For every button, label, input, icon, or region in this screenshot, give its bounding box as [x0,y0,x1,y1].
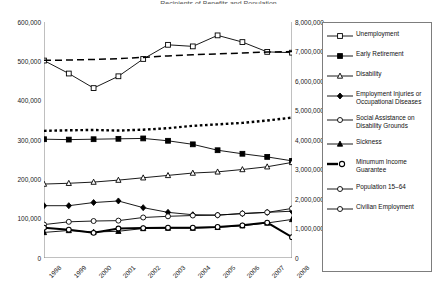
series-minumum-income-guarantee [44,220,292,239]
y-axis-left-tick-label: 500,000 [18,58,42,65]
x-axis-tick-label: 2004 [196,264,211,279]
series-disability [44,160,292,187]
legend-item-label: Minumum Income Guarantee [356,158,407,173]
legend-marker-icon [327,115,353,125]
legend-item-label: Employment Injuries or Occupational Dise… [356,90,421,105]
x-axis-tick-label: 2000 [97,264,112,279]
x-axis-tick-label: 1998 [47,264,62,279]
chart-canvas [44,22,292,258]
y-axis-right-tick-label: 0 [295,255,299,262]
x-axis-tick-label: 2003 [171,264,186,279]
legend-marker-icon [327,91,353,101]
legend-item-label: Social Assistance on Disability Grounds [356,114,415,129]
y-axis-left-tick-label: 100,000 [18,215,42,222]
y-axis-right-tick-label: 6,000,000 [295,78,324,85]
y-axis-left-tick-label: 0 [37,255,41,262]
legend-item[interactable]: Unemployment [327,30,428,41]
series-population-15-64 [44,52,292,61]
x-axis-tick-label: 2005 [221,264,236,279]
legend-item-label: Civilian Employment [356,203,414,211]
y-axis-right-tick-label: 8,000,000 [295,19,324,26]
legend-marker-icon [327,184,353,194]
legend-item-label: Unemployment [356,30,399,38]
series-early-retirement [44,136,292,163]
x-axis-tick-label: 2002 [146,264,161,279]
y-axis-right-tick-label: 4,000,000 [295,137,324,144]
legend-item-label: Sickness [356,138,382,146]
legend-item[interactable]: Minumum Income Guarantee [327,158,428,173]
x-axis-tick-label: 2001 [122,264,137,279]
y-axis-right-tick-label: 3,000,000 [295,166,324,173]
series-unemployment [44,33,292,91]
x-axis-tick-label: 2006 [246,264,261,279]
series-civilian-employment [44,118,292,131]
legend-item-label: Early Retirement [356,50,404,58]
y-axis-left-tick-label: 300,000 [18,137,42,144]
legend-marker-icon [327,51,353,61]
x-axis-tick-label: 2007 [270,264,285,279]
legend-marker-icon [327,159,353,169]
legend-item[interactable]: Early Retirement [327,50,428,61]
x-axis-tick-label: 2008 [295,264,310,279]
y-axis-left-tick-label: 200,000 [18,176,42,183]
y-axis-right-tick-label: 7,000,000 [295,48,324,55]
clipped-chart-title: Recipients of Benefits and Population [0,0,437,4]
legend-item[interactable]: Civilian Employment [327,203,428,214]
legend-marker-icon [327,31,353,41]
legend-item[interactable]: Employment Injuries or Occupational Dise… [327,90,428,105]
legend-item[interactable]: Sickness [327,138,428,149]
legend-item[interactable]: Disability [327,70,428,81]
y-axis-right-tick-label: 5,000,000 [295,107,324,114]
chart-legend: UnemploymentEarly RetirementDisabilityEm… [322,22,432,272]
y-axis-right-tick-label: 2,000,000 [295,196,324,203]
legend-marker-icon [327,204,353,214]
x-axis-tick-label: 1999 [72,264,87,279]
legend-marker-icon [327,139,353,149]
y-axis-left-tick-label: 400,000 [18,97,42,104]
chart-plot-area: 600,000500,000400,000300,000200,000100,0… [44,22,292,258]
legend-item-label: Population 15–64 [356,183,406,191]
legend-item-label: Disability [356,70,382,78]
legend-item[interactable]: Population 15–64 [327,183,428,194]
legend-marker-icon [327,71,353,81]
y-axis-right-tick-label: 1,000,000 [295,225,324,232]
y-axis-left-tick-label: 600,000 [18,19,42,26]
legend-item[interactable]: Social Assistance on Disability Grounds [327,114,428,129]
